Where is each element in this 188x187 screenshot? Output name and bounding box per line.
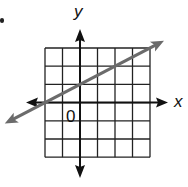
series-line	[5, 41, 164, 124]
y-axis-label: y	[74, 2, 83, 22]
x-axis-label: x	[174, 92, 183, 112]
coordinate-plane	[0, 0, 188, 187]
origin-label: 0	[66, 107, 75, 127]
